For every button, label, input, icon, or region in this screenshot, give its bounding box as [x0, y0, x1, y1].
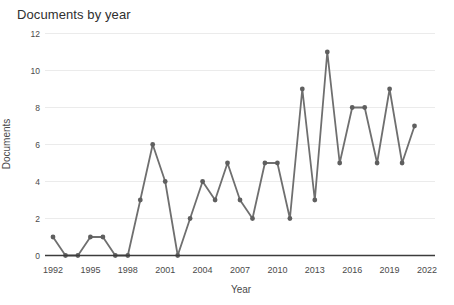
grid-layer	[45, 34, 435, 219]
data-point-2005[interactable]	[213, 198, 218, 203]
documents-by-year-chart: Documents by year 024681012 199219951998…	[0, 0, 454, 305]
data-point-1992[interactable]	[51, 235, 56, 240]
data-point-2021[interactable]	[412, 124, 417, 129]
y-tick-label-0: 0	[35, 251, 40, 261]
y-tick-label-10: 10	[31, 66, 41, 76]
data-point-2007[interactable]	[238, 198, 243, 203]
data-point-2003[interactable]	[188, 216, 193, 221]
data-point-2017[interactable]	[362, 105, 367, 110]
x-tick-label-2007: 2007	[230, 265, 250, 275]
x-tick-label-2013: 2013	[305, 265, 325, 275]
data-point-2019[interactable]	[387, 87, 392, 92]
y-axis-labels: 024681012	[31, 29, 41, 261]
data-point-2018[interactable]	[375, 161, 380, 166]
y-tick-label-8: 8	[35, 103, 40, 113]
documents-series-line	[53, 52, 415, 256]
data-point-2009[interactable]	[263, 161, 268, 166]
x-tick-label-1995: 1995	[80, 265, 100, 275]
line-chart: 024681012 199219951998200120042007201020…	[0, 0, 454, 305]
data-point-2000[interactable]	[150, 142, 155, 147]
x-axis-labels: 1992199519982001200420072010201320162019…	[43, 265, 437, 275]
x-tick-label-2019: 2019	[380, 265, 400, 275]
x-tick-label-2004: 2004	[193, 265, 213, 275]
data-point-1999[interactable]	[138, 198, 143, 203]
y-tick-label-12: 12	[31, 29, 41, 39]
data-point-2008[interactable]	[250, 216, 255, 221]
data-point-2004[interactable]	[200, 179, 205, 184]
series-layer	[51, 50, 417, 258]
data-point-2020[interactable]	[400, 161, 405, 166]
x-tick-label-1998: 1998	[118, 265, 138, 275]
x-tick-label-2022: 2022	[417, 265, 437, 275]
data-point-2013[interactable]	[312, 198, 317, 203]
data-point-2014[interactable]	[325, 50, 330, 55]
data-point-2011[interactable]	[288, 216, 293, 221]
y-tick-label-6: 6	[35, 140, 40, 150]
x-axis-title: Year	[231, 284, 252, 295]
x-tick-label-1992: 1992	[43, 265, 63, 275]
data-point-2001[interactable]	[163, 179, 168, 184]
data-point-2006[interactable]	[225, 161, 230, 166]
x-tick-label-2016: 2016	[342, 265, 362, 275]
x-tick-label-2010: 2010	[267, 265, 287, 275]
y-tick-label-4: 4	[35, 177, 40, 187]
x-tick-label-2001: 2001	[155, 265, 175, 275]
data-point-2012[interactable]	[300, 87, 305, 92]
data-point-1995[interactable]	[88, 235, 93, 240]
y-axis-title: Documents	[1, 119, 12, 170]
y-tick-label-2: 2	[35, 214, 40, 224]
data-point-2016[interactable]	[350, 105, 355, 110]
data-point-1996[interactable]	[101, 235, 106, 240]
data-point-2015[interactable]	[337, 161, 342, 166]
data-point-2010[interactable]	[275, 161, 280, 166]
